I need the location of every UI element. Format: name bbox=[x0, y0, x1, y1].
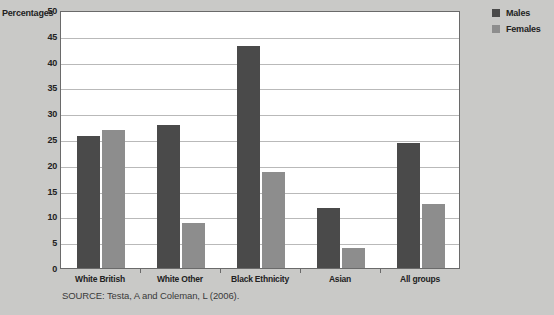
bar bbox=[102, 130, 125, 268]
y-axis-tick-label: 15 bbox=[47, 187, 57, 197]
source-caption: SOURCE: Testa, A and Coleman, L (2006). bbox=[62, 290, 239, 301]
y-axis-tick-label: 20 bbox=[47, 161, 57, 171]
x-axis-category-label: White Other bbox=[157, 274, 203, 284]
legend-item: Males bbox=[492, 8, 541, 18]
y-axis-tick-label: 35 bbox=[47, 83, 57, 93]
x-axis-category-label: Black Ethnicity bbox=[231, 274, 289, 284]
y-axis-tick-label: 0 bbox=[52, 264, 57, 274]
y-axis-tick-label: 25 bbox=[47, 135, 57, 145]
y-axis-tick-label: 45 bbox=[47, 32, 57, 42]
x-axis-category-label: Asian bbox=[329, 274, 351, 284]
y-axis-tick-label: 10 bbox=[47, 212, 57, 222]
x-axis-tick bbox=[140, 269, 141, 273]
legend-item: Females bbox=[492, 24, 541, 34]
legend-swatch-icon bbox=[492, 25, 500, 33]
y-axis-tick-label: 50 bbox=[47, 6, 57, 16]
legend-label: Males bbox=[506, 8, 530, 18]
bar bbox=[342, 248, 365, 268]
x-axis-tick bbox=[380, 269, 381, 273]
bar bbox=[157, 125, 180, 268]
y-axis-tick-labels: 50454035302520151050 bbox=[36, 11, 57, 269]
x-axis-tick bbox=[220, 269, 221, 273]
y-axis-tick-label: 30 bbox=[47, 109, 57, 119]
bar bbox=[262, 172, 285, 268]
legend-swatch-icon bbox=[492, 9, 500, 17]
bar bbox=[182, 223, 205, 268]
x-axis-category-label: White British bbox=[75, 274, 125, 284]
bars-layer bbox=[61, 12, 459, 268]
x-axis-category-label: All groups bbox=[400, 274, 440, 284]
x-axis-tick bbox=[300, 269, 301, 273]
bar bbox=[317, 208, 340, 268]
bar bbox=[422, 204, 445, 269]
chart-legend: MalesFemales bbox=[492, 8, 541, 40]
bar-chart-figure: Percentages 50454035302520151050 White B… bbox=[0, 0, 554, 315]
bar bbox=[237, 46, 260, 268]
bar bbox=[397, 143, 420, 268]
bar bbox=[77, 136, 100, 268]
y-axis-tick-label: 40 bbox=[47, 58, 57, 68]
y-axis-tick-label: 5 bbox=[52, 238, 57, 248]
legend-label: Females bbox=[506, 24, 541, 34]
plot-area bbox=[60, 11, 460, 269]
